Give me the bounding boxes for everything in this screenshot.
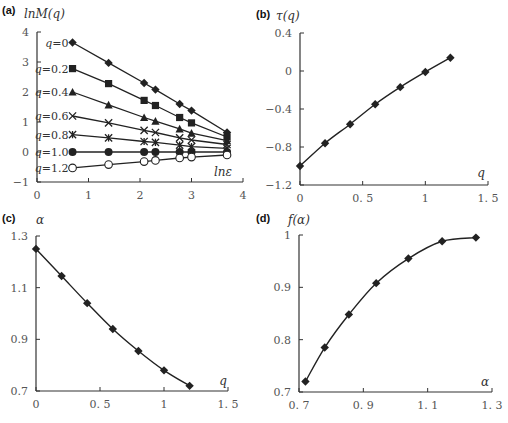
x-tick-label: 0 bbox=[33, 398, 40, 411]
diamond-marker bbox=[321, 343, 329, 351]
diamond-marker bbox=[396, 83, 404, 91]
square-marker bbox=[188, 119, 195, 126]
y-tick-label: −0.4 bbox=[265, 103, 292, 116]
y-tick-label: 0.9 bbox=[274, 281, 292, 294]
square-marker bbox=[69, 65, 76, 72]
x-tick-label: 1 bbox=[85, 189, 92, 202]
y-tick-label: 2 bbox=[22, 86, 29, 99]
open-circle-marker bbox=[188, 153, 196, 161]
panel-c-alpha-vs-q: 0.70.91.11.300. 511. 5(c)αq bbox=[2, 212, 239, 411]
panel-label: (d) bbox=[256, 212, 270, 224]
open-circle-marker bbox=[176, 154, 184, 162]
triangle-marker bbox=[140, 113, 148, 121]
panel-label: (c) bbox=[2, 212, 16, 224]
filled-circle-marker bbox=[105, 148, 113, 156]
series-label: 𝑞=1.2 bbox=[35, 162, 69, 175]
x-axis-label: α bbox=[481, 375, 489, 389]
diamond-marker bbox=[68, 38, 76, 46]
y-tick-label: 3 bbox=[22, 56, 29, 69]
triangle-marker bbox=[104, 101, 112, 109]
x-tick-label: 1. 5 bbox=[218, 398, 239, 411]
filled-circle-marker bbox=[140, 148, 148, 156]
y-tick-label: 0.8 bbox=[274, 334, 292, 347]
y-tick-label: 1.1 bbox=[11, 282, 29, 295]
x-tick-label: 1. 3 bbox=[482, 399, 503, 412]
y-axis-label: α bbox=[36, 213, 44, 227]
x-tick-label: 1 bbox=[422, 192, 429, 205]
square-marker bbox=[176, 114, 183, 121]
diamond-marker bbox=[472, 233, 480, 241]
y-tick-label: −0.8 bbox=[265, 141, 292, 154]
multifractal-figure: −10123401234(a)lnM(q)lnε𝑞=0𝑞=0.2𝑞=0.4𝑞=0… bbox=[0, 0, 508, 423]
square-marker bbox=[152, 102, 159, 109]
y-tick-label: 1 bbox=[22, 116, 29, 129]
x-tick-label: 4 bbox=[240, 189, 247, 202]
filled-circle-marker bbox=[151, 148, 159, 156]
y-tick-label: −1 bbox=[13, 176, 29, 189]
diamond-marker bbox=[438, 237, 446, 245]
x-axis-label: q bbox=[477, 166, 485, 180]
x-tick-label: 0. 5 bbox=[90, 398, 111, 411]
triangle-marker bbox=[68, 88, 76, 96]
series-label: 𝑞=0 bbox=[45, 37, 68, 50]
diamond-marker bbox=[140, 79, 148, 87]
series-line bbox=[73, 92, 228, 141]
y-tick-label: 1.3 bbox=[11, 230, 29, 243]
series-label: 𝑞=0.8 bbox=[35, 129, 69, 142]
diamond-marker bbox=[446, 54, 454, 62]
x-tick-label: 1 bbox=[161, 398, 168, 411]
panel-d-f-alpha-vs-alpha: 0.70.80.910. 70. 91. 11. 3(d)f(α)α bbox=[256, 212, 503, 412]
series-label: 𝑞=1.0 bbox=[35, 146, 69, 159]
series-label: 𝑞=0.6 bbox=[35, 110, 69, 123]
panel-b-tau-vs-q: −1.2−0.8−0.400.400. 511. 5(b)τ(q)q bbox=[256, 8, 499, 205]
y-tick-label: 0 bbox=[285, 65, 292, 78]
square-marker bbox=[141, 97, 148, 104]
diamond-marker bbox=[185, 382, 193, 390]
y-tick-label: 4 bbox=[22, 26, 29, 39]
open-circle-marker bbox=[140, 158, 148, 166]
series-line bbox=[73, 69, 228, 137]
y-tick-label: 0.7 bbox=[274, 386, 292, 399]
square-marker bbox=[105, 80, 112, 87]
x-tick-label: 0. 5 bbox=[352, 192, 373, 205]
diamond-marker bbox=[421, 68, 429, 76]
y-axis-label: τ(q) bbox=[276, 9, 300, 23]
panel-label: (b) bbox=[256, 8, 270, 20]
y-tick-label: 0.7 bbox=[11, 385, 29, 398]
x-tick-label: 1. 1 bbox=[417, 399, 438, 412]
y-tick-label: 1 bbox=[284, 229, 291, 242]
curve bbox=[300, 58, 450, 166]
open-circle-marker bbox=[223, 151, 231, 159]
diamond-marker bbox=[187, 106, 195, 114]
y-tick-label: 0 bbox=[22, 146, 29, 159]
y-axis-label: f(α) bbox=[287, 213, 310, 227]
triangle-marker bbox=[187, 129, 195, 137]
curve bbox=[36, 249, 190, 386]
x-axis-label: q bbox=[219, 374, 227, 388]
diamond-marker bbox=[151, 85, 159, 93]
series-line bbox=[73, 116, 228, 145]
filled-circle-marker bbox=[69, 148, 77, 156]
y-axis-label: lnM(q) bbox=[24, 7, 65, 21]
diamond-marker bbox=[104, 59, 112, 67]
x-axis-label: lnε bbox=[214, 165, 232, 179]
y-tick-label: 0.9 bbox=[11, 333, 29, 346]
open-circle-marker bbox=[152, 157, 160, 165]
diamond-marker bbox=[404, 254, 412, 262]
series-label: 𝑞=0.4 bbox=[35, 86, 69, 99]
x-tick-label: 0. 7 bbox=[289, 399, 310, 412]
series-q-0: 𝑞=0 bbox=[45, 37, 231, 137]
diamond-marker bbox=[160, 366, 168, 374]
diamond-marker bbox=[301, 377, 309, 385]
x-tick-label: 2 bbox=[137, 189, 144, 202]
y-tick-label: −1.2 bbox=[265, 179, 292, 192]
panel-label: (a) bbox=[2, 4, 16, 16]
curve bbox=[305, 238, 475, 382]
x-tick-label: 1. 5 bbox=[478, 192, 499, 205]
x-tick-label: 0 bbox=[34, 189, 41, 202]
open-circle-marker bbox=[69, 164, 77, 172]
x-tick-label: 0 bbox=[297, 192, 304, 205]
x-tick-label: 3 bbox=[188, 189, 195, 202]
panel-a-lnM-vs-lne: −10123401234(a)lnM(q)lnε𝑞=0𝑞=0.2𝑞=0.4𝑞=0… bbox=[2, 4, 247, 202]
diamond-marker bbox=[175, 100, 183, 108]
